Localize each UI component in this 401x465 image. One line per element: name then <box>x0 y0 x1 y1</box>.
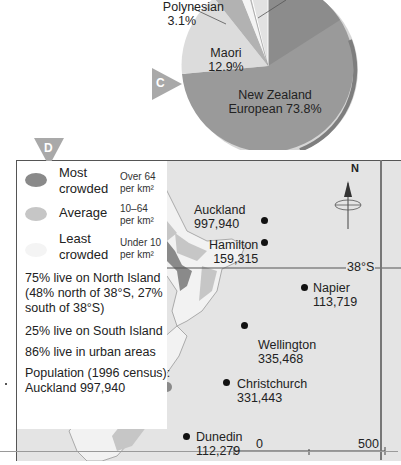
pie-label-polynesian: Polynesian 3.1% <box>134 0 224 28</box>
city-population: 159,315 <box>209 252 258 266</box>
map-legend: Most crowded Over 64 per km² Average 10–… <box>17 161 167 429</box>
city-population: 335,468 <box>258 352 316 366</box>
city-name: Napier <box>313 281 357 295</box>
note-census-1: Population (1996 census): <box>25 366 175 381</box>
note-census-2: Auckland 997,940 <box>25 381 175 396</box>
note-north-1: 75% live on North Island <box>25 271 175 286</box>
maori-label: Maori <box>196 46 256 60</box>
scale-end-label: 500 <box>358 437 379 451</box>
note-north-2: (48% north of 38°S, 27% <box>25 286 175 301</box>
city-christchurch: Christchurch 331,443 <box>237 377 307 405</box>
pie-label-nz-european: New Zealand European 73.8% <box>200 88 350 116</box>
most-crowded-density-1: Over 64 <box>120 171 156 183</box>
polynesian-label: Polynesian <box>134 0 224 14</box>
ethnicity-pie-chart: Polynesian 3.1% Maori 12.9% New Zealand … <box>0 0 398 150</box>
nz-european-label: New Zealand <box>200 88 350 102</box>
city-dot-wellington <box>241 322 248 329</box>
latitude-label: 38°S <box>346 260 375 274</box>
note-urban: 86% live in urban areas <box>25 345 175 360</box>
city-wellington: Wellington 335,468 <box>258 338 316 366</box>
section-d-label: D <box>44 141 53 155</box>
note-south-island: 25% live on South Island <box>25 324 175 339</box>
map-right-border <box>380 160 382 460</box>
city-population: 113,719 <box>313 295 357 309</box>
note-census: Population (1996 census): Auckland 997,9… <box>25 366 175 396</box>
city-dot-napier <box>301 284 308 291</box>
polynesian-value: 3.1% <box>134 14 224 28</box>
city-hamilton: Hamilton 159,315 <box>209 238 258 266</box>
compass-north-label: N <box>351 162 359 174</box>
nz-european-value: European 73.8% <box>200 102 350 116</box>
city-napier: Napier 113,719 <box>313 281 357 309</box>
average-density-2: per km² <box>120 215 154 227</box>
city-auckland: Auckland 997,940 <box>194 203 245 231</box>
city-dunedin: Dunedin 112,279 <box>196 430 243 458</box>
city-name: Auckland <box>194 203 245 217</box>
maori-value: 12.9% <box>196 60 256 74</box>
note-north-3: south of 38°S) <box>25 301 175 316</box>
least-crowded-density-2: per km² <box>120 249 161 261</box>
least-crowded-swatch <box>25 243 47 257</box>
city-population: 997,940 <box>194 217 245 231</box>
city-population: 331,443 <box>237 391 307 405</box>
most-crowded-density-2: per km² <box>120 183 156 195</box>
average-density-1: 10–64 <box>120 203 154 215</box>
city-name: Christchurch <box>237 377 307 391</box>
margin-mark <box>5 383 7 385</box>
least-crowded-label-2: crowded <box>59 247 108 263</box>
city-population: 112,279 <box>196 444 243 458</box>
city-dot-dunedin <box>183 433 190 440</box>
most-crowded-label-1: Most <box>59 165 108 181</box>
compass-arrow <box>344 181 352 197</box>
city-name: Hamilton <box>209 238 258 252</box>
average-label: Average <box>59 205 107 221</box>
pie-label-maori: Maori 12.9% <box>196 46 256 74</box>
note-north-island: 75% live on North Island (48% north of 3… <box>25 271 175 316</box>
city-dot-christchurch <box>223 379 230 386</box>
least-crowded-density-1: Under 10 <box>120 237 161 249</box>
section-c-label: C <box>156 76 165 90</box>
city-dot-auckland <box>261 217 268 224</box>
average-swatch <box>25 207 47 221</box>
city-dot-hamilton <box>261 239 268 246</box>
most-crowded-label-2: crowded <box>59 181 108 197</box>
most-crowded-swatch <box>25 173 47 187</box>
city-name: Dunedin <box>196 430 243 444</box>
city-name: Wellington <box>258 338 316 352</box>
least-crowded-label-1: Least <box>59 231 108 247</box>
scale-start-label: 0 <box>256 437 263 451</box>
